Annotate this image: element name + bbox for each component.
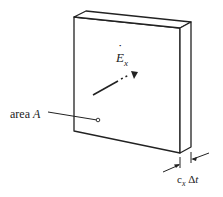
area-label: area A — [10, 107, 40, 122]
slab-front-face — [74, 17, 180, 153]
slab-side-face — [180, 22, 191, 153]
slab-drawing — [0, 0, 223, 197]
dimension-arrow-right-icon — [191, 157, 197, 161]
field-label: ˙Ex — [116, 50, 128, 68]
dimension-arrow-left-icon — [174, 164, 180, 168]
area-point-marker — [96, 118, 100, 122]
slab-diagram: area A ˙Ex cx Δt — [0, 0, 223, 197]
thickness-label: cx Δt — [177, 173, 198, 188]
thickness-dimension — [163, 152, 209, 172]
